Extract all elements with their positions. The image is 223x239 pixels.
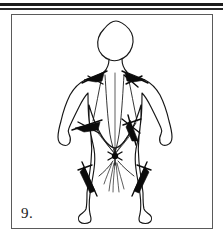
figure-frame: 9.	[11, 14, 213, 229]
meridian-node-to-left-calf	[99, 161, 113, 176]
scanned-page: 9.	[0, 0, 223, 239]
head-outline	[98, 21, 133, 61]
groin-convergence-node	[108, 148, 122, 165]
page-top-double-rule	[0, 3, 223, 10]
meridian-node-to-right-calf	[118, 161, 134, 176]
figure-number-label: 9.	[21, 206, 33, 221]
rule-thin-line	[0, 8, 223, 10]
figure-illustration	[12, 15, 214, 230]
radiating-line-3	[116, 163, 119, 192]
